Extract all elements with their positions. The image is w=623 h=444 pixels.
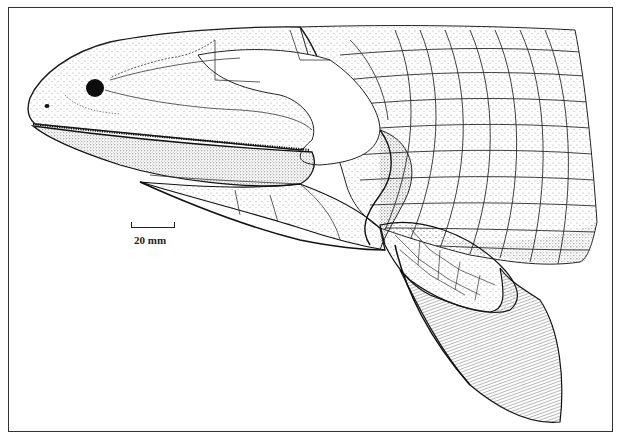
fish-illustration — [0, 0, 623, 444]
nostril-icon — [45, 104, 50, 108]
eye-icon — [86, 79, 104, 97]
scale-bar — [131, 222, 175, 228]
scale-bar-label: 20 mm — [134, 234, 166, 246]
